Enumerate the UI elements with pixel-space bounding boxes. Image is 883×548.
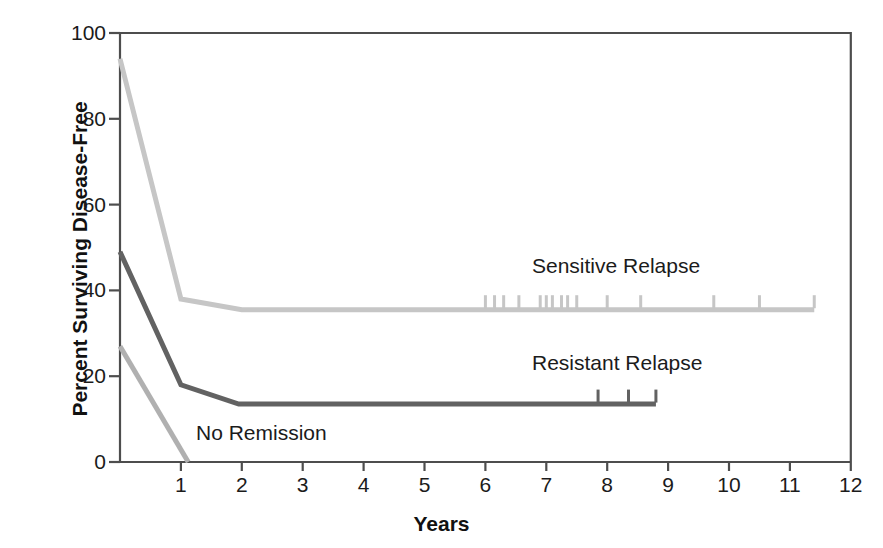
x-tick-label-9: 9 bbox=[662, 473, 674, 497]
series-label-resistant-relapse: Resistant Relapse bbox=[532, 351, 702, 375]
plot-frame bbox=[120, 33, 851, 462]
series-line-sensitive-relapse bbox=[120, 59, 814, 310]
x-tick-label-3: 3 bbox=[297, 473, 309, 497]
x-axis-title: Years bbox=[0, 512, 883, 536]
series-label-sensitive-relapse: Sensitive Relapse bbox=[532, 254, 700, 278]
y-tick-label-60: 60 bbox=[60, 193, 106, 217]
x-tick-label-6: 6 bbox=[480, 473, 492, 497]
survival-curve-figure: Percent Surviving Disease-Free Years 0 2… bbox=[0, 0, 883, 548]
series-label-no-remission: No Remission bbox=[196, 421, 327, 445]
y-tick-label-100: 100 bbox=[48, 21, 106, 45]
x-tick-label-4: 4 bbox=[358, 473, 370, 497]
x-tick-label-5: 5 bbox=[419, 473, 431, 497]
x-tick-label-11: 11 bbox=[779, 473, 801, 497]
plot-area bbox=[0, 0, 883, 548]
x-tick-label-12: 12 bbox=[839, 473, 862, 497]
x-tick-label-2: 2 bbox=[236, 473, 248, 497]
y-tick-label-20: 20 bbox=[60, 364, 106, 388]
x-tick-label-1: 1 bbox=[175, 473, 187, 497]
y-tick-label-40: 40 bbox=[60, 278, 106, 302]
x-tick-label-7: 7 bbox=[540, 473, 552, 497]
x-tick-label-8: 8 bbox=[601, 473, 613, 497]
x-tick-label-10: 10 bbox=[717, 473, 740, 497]
y-tick-label-80: 80 bbox=[60, 107, 106, 131]
series-line-no-remission bbox=[120, 346, 188, 462]
y-tick-label-0: 0 bbox=[60, 450, 106, 474]
